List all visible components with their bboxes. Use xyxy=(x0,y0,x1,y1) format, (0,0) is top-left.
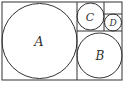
label-d: D xyxy=(108,18,116,28)
label-b: B xyxy=(95,49,105,63)
label-c: C xyxy=(86,11,95,24)
diagram-canvas: A B C D xyxy=(0,0,124,86)
label-a: A xyxy=(33,34,43,49)
